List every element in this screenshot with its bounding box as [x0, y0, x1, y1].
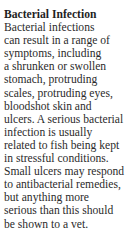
body-line: but anything more [4, 191, 126, 204]
body-line: symptoms, including [4, 47, 126, 60]
document-section: Bacterial Infection Bacterial infections… [4, 8, 126, 230]
body-line: stomach, protruding [4, 73, 126, 86]
body-line: ulcers. A serious bacterial [4, 113, 126, 126]
body-line: scales, protruding eyes, [4, 87, 126, 100]
body-line: can result in a range of [4, 34, 126, 47]
section-body: Bacterial infections can result in a ran… [4, 21, 126, 230]
body-line: Small ulcers may respond [4, 165, 126, 178]
body-line: related to fish being kept [4, 139, 126, 152]
body-line: be shown to a vet. [4, 218, 126, 231]
body-line: bloodshot skin and [4, 100, 126, 113]
body-line: infection is usually [4, 126, 126, 139]
body-line: Bacterial infections [4, 21, 126, 34]
body-line: a shrunken or swollen [4, 60, 126, 73]
section-heading: Bacterial Infection [4, 8, 126, 21]
body-line: in stressful conditions. [4, 152, 126, 165]
body-line: to antibacterial remedies, [4, 178, 126, 191]
body-line: serious than this should [4, 204, 126, 217]
